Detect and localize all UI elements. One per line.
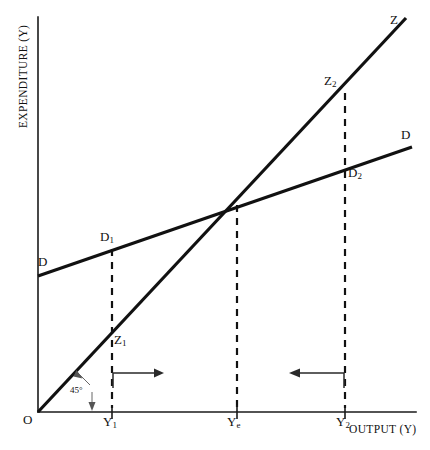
angle-label-45-degrees: 45° bbox=[70, 386, 83, 395]
point-label-z1-sub: 1 bbox=[122, 338, 127, 348]
z-line-45-degree bbox=[38, 18, 406, 412]
point-label-z2-sub: 2 bbox=[332, 79, 337, 89]
point-label-z1: Z1 bbox=[114, 333, 126, 348]
tick-label-ye-base: Y bbox=[227, 414, 236, 429]
tick-label-ye: Ye bbox=[227, 415, 240, 430]
point-label-d2-base: D bbox=[348, 165, 357, 180]
curve-label-d-right: D bbox=[401, 128, 410, 141]
point-label-z2: Z2 bbox=[324, 74, 336, 89]
point-label-d2: D2 bbox=[348, 166, 362, 181]
tick-label-y2-sub: 2 bbox=[345, 420, 350, 430]
point-label-d1-base: D bbox=[100, 229, 109, 244]
arrow-output-contraction bbox=[289, 369, 344, 389]
tick-label-y1: Y1 bbox=[103, 415, 117, 430]
keynesian-cross-figure: EXPENDITURE (Y) OUTPUT (Y) O Y1 Ye Y2 Z … bbox=[0, 0, 430, 450]
tick-label-y2: Y2 bbox=[336, 415, 350, 430]
origin-label: O bbox=[23, 413, 32, 426]
curve-label-z: Z bbox=[390, 13, 398, 26]
point-label-d1-sub: 1 bbox=[109, 235, 114, 245]
tick-label-y1-base: Y bbox=[103, 414, 112, 429]
arrow-output-expansion bbox=[113, 369, 164, 389]
y-axis-title: EXPENDITURE (Y) bbox=[18, 25, 30, 128]
point-label-z1-base: Z bbox=[114, 332, 122, 347]
curve-label-d-left: D bbox=[38, 255, 47, 268]
x-axis-title: OUTPUT (Y) bbox=[349, 424, 417, 436]
point-label-z2-base: Z bbox=[324, 73, 332, 88]
tick-label-y1-sub: 1 bbox=[112, 420, 117, 430]
tick-label-y2-base: Y bbox=[336, 414, 345, 429]
point-label-d2-sub: 2 bbox=[357, 171, 362, 181]
point-label-d1: D1 bbox=[100, 230, 114, 245]
chart-canvas bbox=[0, 0, 430, 450]
tick-label-ye-sub: e bbox=[236, 420, 240, 430]
